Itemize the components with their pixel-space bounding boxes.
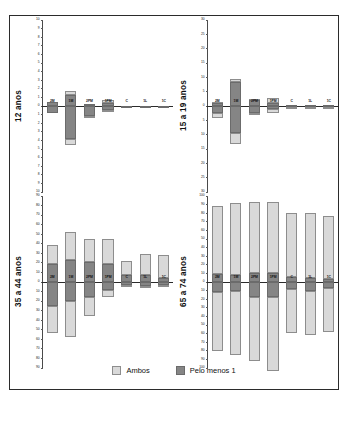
bar-negative[interactable] <box>305 282 316 335</box>
bar-segment-ambos[interactable] <box>305 291 316 335</box>
bar-negative[interactable] <box>47 106 58 113</box>
bar-segment-ambos[interactable] <box>84 297 95 316</box>
bar-negative[interactable] <box>230 282 241 355</box>
bar-negative[interactable] <box>212 282 223 351</box>
bar-group[interactable]: 1L <box>136 20 155 192</box>
bar-negative[interactable] <box>121 106 132 107</box>
bar-segment-ambos[interactable] <box>84 116 95 118</box>
bar-negative[interactable] <box>65 106 76 145</box>
bar-segment-ambos[interactable] <box>65 301 76 337</box>
bar-group[interactable]: C <box>117 20 136 192</box>
bar-positive[interactable] <box>249 202 260 282</box>
bar-segment-ambos[interactable] <box>249 297 260 362</box>
bar-positive[interactable] <box>267 202 278 282</box>
bar-segment-ambos[interactable] <box>305 107 316 109</box>
bar-group[interactable]: 2M <box>43 196 62 368</box>
bar-segment-pelo-menos-1[interactable] <box>65 282 76 301</box>
bar-group[interactable]: 1PM <box>99 20 118 192</box>
bar-segment-ambos[interactable] <box>267 109 278 113</box>
bar-negative[interactable] <box>249 106 260 114</box>
bar-segment-ambos[interactable] <box>230 203 241 275</box>
bar-group[interactable]: 2PM <box>245 20 264 192</box>
bar-segment-pelo-menos-1[interactable] <box>305 282 316 291</box>
bar-group[interactable]: 1C <box>319 196 338 368</box>
bar-segment-ambos[interactable] <box>102 290 113 298</box>
bar-segment-pelo-menos-1[interactable] <box>84 106 95 116</box>
bar-positive[interactable] <box>286 213 297 282</box>
bar-segment-pelo-menos-1[interactable] <box>267 282 278 297</box>
bar-group[interactable]: 2PM <box>80 20 99 192</box>
bar-group[interactable]: 2M <box>208 196 227 368</box>
bar-group[interactable]: 2PM <box>245 196 264 368</box>
bar-segment-pelo-menos-1[interactable] <box>212 282 223 292</box>
bar-group[interactable]: 1C <box>319 20 338 192</box>
bar-negative[interactable] <box>140 282 151 287</box>
bar-segment-ambos[interactable] <box>249 113 260 115</box>
bar-segment-ambos[interactable] <box>102 110 113 112</box>
bar-segment-ambos[interactable] <box>47 245 58 264</box>
bar-segment-pelo-menos-1[interactable] <box>102 282 113 290</box>
bar-segment-ambos[interactable] <box>323 107 334 109</box>
bar-group[interactable]: 1C <box>154 196 173 368</box>
bar-segment-ambos[interactable] <box>286 107 297 109</box>
bar-negative[interactable] <box>267 282 278 371</box>
bar-segment-pelo-menos-1[interactable] <box>84 282 95 297</box>
bar-segment-pelo-menos-1[interactable] <box>121 106 132 108</box>
bar-segment-ambos[interactable] <box>102 239 113 264</box>
bar-group[interactable]: 1L <box>136 196 155 368</box>
bar-negative[interactable] <box>65 282 76 337</box>
bar-segment-pelo-menos-1[interactable] <box>65 106 76 139</box>
bar-negative[interactable] <box>47 282 58 333</box>
bar-positive[interactable] <box>323 216 334 282</box>
bar-group[interactable]: C <box>282 20 301 192</box>
bar-segment-ambos[interactable] <box>47 306 58 333</box>
bar-segment-ambos[interactable] <box>323 288 334 332</box>
bar-segment-pelo-menos-1[interactable] <box>47 282 58 306</box>
bar-segment-ambos[interactable] <box>65 139 76 145</box>
bar-segment-ambos[interactable] <box>212 206 223 274</box>
bar-segment-ambos[interactable] <box>286 213 297 277</box>
bar-negative[interactable] <box>158 106 169 107</box>
bar-negative[interactable] <box>267 106 278 113</box>
bar-negative[interactable] <box>158 282 169 286</box>
bar-group[interactable]: 2M <box>208 20 227 192</box>
bar-segment-pelo-menos-1[interactable] <box>140 106 151 108</box>
bar-group[interactable]: 1M <box>62 196 81 368</box>
bar-segment-ambos[interactable] <box>212 113 223 117</box>
bar-group[interactable]: 2M <box>43 20 62 192</box>
bar-negative[interactable] <box>323 282 334 332</box>
bar-segment-ambos[interactable] <box>140 286 151 288</box>
bar-negative[interactable] <box>286 282 297 333</box>
bar-segment-ambos[interactable] <box>140 254 151 275</box>
bar-segment-ambos[interactable] <box>158 285 169 287</box>
bar-segment-ambos[interactable] <box>230 291 241 355</box>
bar-group[interactable]: 1PM <box>99 196 118 368</box>
bar-segment-ambos[interactable] <box>230 133 241 144</box>
bar-segment-ambos[interactable] <box>305 213 316 278</box>
bar-segment-ambos[interactable] <box>249 202 260 273</box>
bar-negative[interactable] <box>102 282 113 297</box>
bar-segment-pelo-menos-1[interactable] <box>230 106 241 133</box>
bar-negative[interactable] <box>305 106 316 107</box>
bar-segment-ambos[interactable] <box>212 292 223 350</box>
bar-negative[interactable] <box>286 106 297 107</box>
bar-positive[interactable] <box>305 213 316 282</box>
bar-segment-ambos[interactable] <box>286 289 297 333</box>
bar-segment-pelo-menos-1[interactable] <box>212 106 223 113</box>
bar-group[interactable]: 1M <box>62 20 81 192</box>
bar-segment-ambos[interactable] <box>121 285 132 287</box>
bar-positive[interactable] <box>230 203 241 282</box>
bar-negative[interactable] <box>212 106 223 118</box>
bar-negative[interactable] <box>84 106 95 118</box>
bar-segment-ambos[interactable] <box>267 297 278 371</box>
bar-group[interactable]: 2PM <box>80 196 99 368</box>
bar-segment-ambos[interactable] <box>323 216 334 279</box>
bar-segment-pelo-menos-1[interactable] <box>249 282 260 297</box>
bar-positive[interactable] <box>212 206 223 282</box>
bar-group[interactable]: 1PM <box>264 196 283 368</box>
bar-negative[interactable] <box>140 106 151 107</box>
bar-segment-pelo-menos-1[interactable] <box>286 282 297 289</box>
bar-negative[interactable] <box>121 282 132 286</box>
bar-segment-ambos[interactable] <box>121 261 132 275</box>
bar-segment-pelo-menos-1[interactable] <box>47 106 58 113</box>
